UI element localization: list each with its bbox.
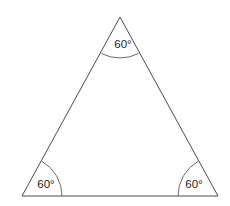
bottom-left-angle-label: 60° [37, 178, 54, 190]
triangle-diagram-canvas: 60° 60° 60° [0, 0, 230, 206]
triangle-figure: 60° 60° 60° [0, 0, 230, 206]
apex-angle-arc [101, 54, 138, 58]
apex-angle-label: 60° [114, 38, 131, 50]
bottom-right-angle-label: 60° [185, 178, 202, 190]
